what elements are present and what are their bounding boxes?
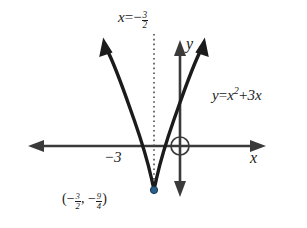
vertex-y-sign: − [88, 191, 96, 206]
vertex-comma: , [81, 191, 85, 206]
x-axis [28, 140, 266, 152]
equation-linear-term: 3x [247, 87, 261, 103]
equation-lhs: y [212, 87, 219, 103]
y-axis-top-arrowhead [174, 40, 186, 56]
axis-sym-variable: x [118, 9, 125, 25]
equation-label: y=x2+3x [212, 86, 262, 103]
axis-sym-sign: − [133, 9, 141, 25]
x-axis-left-arrowhead [28, 140, 44, 152]
parabola-path [107, 49, 201, 189]
vertex-close-paren: ) [102, 191, 107, 206]
axis-sym-fraction: 32 [142, 11, 149, 31]
equation-equals: = [219, 87, 227, 103]
coordinate-plane-svg [0, 0, 307, 228]
x-intercept-label: −3 [104, 150, 122, 165]
y-axis-label: y [186, 36, 193, 52]
vertex-x-sign: − [67, 191, 75, 206]
vertex-coordinate-label: (−32, −94) [62, 192, 107, 211]
axis-sym-denominator: 2 [142, 21, 149, 30]
y-axis-bottom-arrowhead [174, 181, 186, 197]
axis-sym-equals: = [125, 9, 133, 25]
parabola-curve [99, 38, 209, 190]
graph-figure: x=−32 y=x2+3x −3 (−32, −94) x y [0, 0, 307, 228]
vertex-point-dot [150, 186, 157, 193]
x-axis-label: x [250, 150, 257, 166]
equation-base: x [227, 87, 234, 103]
axis-of-symmetry-label: x=−32 [118, 10, 148, 31]
